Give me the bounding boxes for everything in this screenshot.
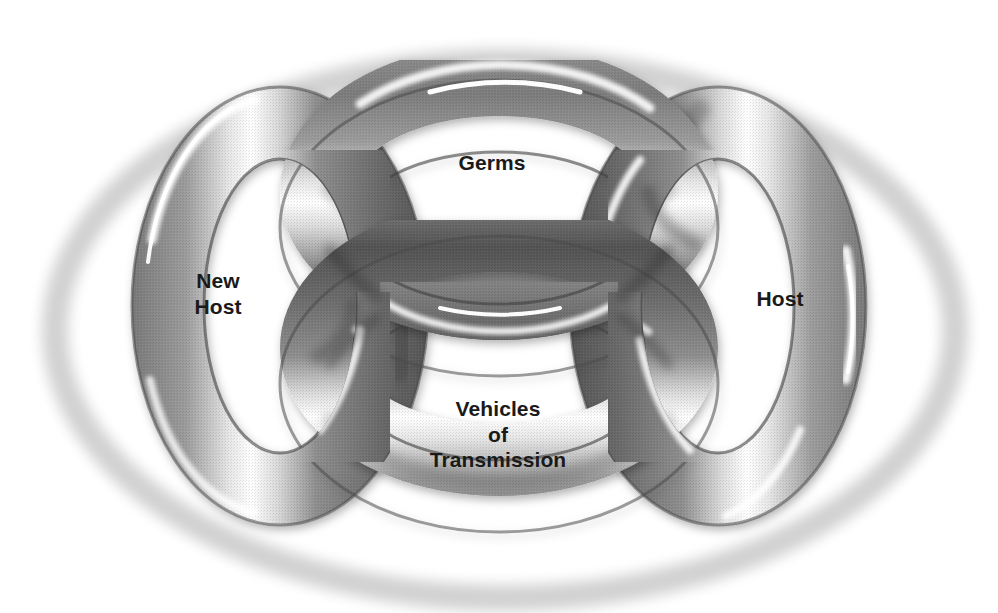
diagram-canvas: Germs New Host Host Vehicles of Transmis… — [0, 0, 998, 613]
ring-label-new-host: New Host — [148, 268, 288, 319]
ring-label-vehicles-of-transmission: Vehicles of Transmission — [398, 396, 598, 473]
ring-label-host: Host — [710, 286, 850, 312]
ring-label-germs: Germs — [412, 150, 572, 176]
